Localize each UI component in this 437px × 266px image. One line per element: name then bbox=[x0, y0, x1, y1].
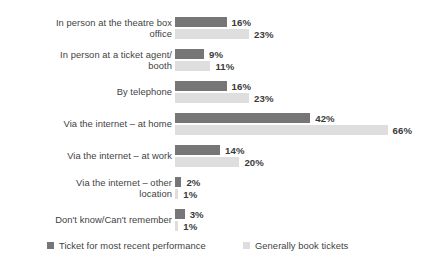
bar-value-label: 1% bbox=[183, 189, 197, 200]
chart-category-row: Via the internet – other location2%1% bbox=[0, 172, 437, 204]
bar-series-a bbox=[175, 49, 204, 59]
category-bar-group: 9%11% bbox=[175, 44, 437, 76]
bar-value-label: 14% bbox=[225, 145, 245, 156]
bar-track: 16% bbox=[175, 81, 437, 91]
chart-category-row: Don't know/Can't remember3%1% bbox=[0, 204, 437, 236]
chart-plot-area: In person at the theatre box office16%23… bbox=[0, 12, 437, 227]
chart-category-row: Via the internet – at home42%66% bbox=[0, 108, 437, 140]
legend-label-series-a: Ticket for most recent performance bbox=[59, 240, 206, 251]
bar-value-label: 9% bbox=[209, 49, 223, 60]
category-bar-group: 3%1% bbox=[175, 204, 437, 236]
category-label: In person at a ticket agent/ booth bbox=[12, 49, 172, 72]
bar-series-b bbox=[175, 221, 178, 231]
bar-chart: In person at the theatre box office16%23… bbox=[0, 0, 437, 266]
bar-value-label: 1% bbox=[183, 221, 197, 232]
bar-track: 3% bbox=[175, 209, 437, 219]
legend-item-generally-book-tickets: Generally book tickets bbox=[243, 237, 348, 253]
bar-series-a bbox=[175, 209, 185, 219]
category-label: Via the internet – at home bbox=[12, 118, 172, 129]
bar-track: 14% bbox=[175, 145, 437, 155]
category-label: By telephone bbox=[12, 86, 172, 97]
chart-legend: Ticket for most recent performance Gener… bbox=[0, 237, 437, 257]
bar-value-label: 20% bbox=[244, 157, 264, 168]
bar-series-b bbox=[175, 93, 249, 103]
bar-track: 23% bbox=[175, 29, 437, 39]
bar-value-label: 42% bbox=[315, 113, 335, 124]
legend-label-series-b: Generally book tickets bbox=[255, 240, 348, 251]
bar-value-label: 11% bbox=[215, 61, 234, 72]
bar-track: 20% bbox=[175, 157, 437, 167]
category-bar-group: 2%1% bbox=[175, 172, 437, 204]
category-bar-group: 14%20% bbox=[175, 140, 437, 172]
bar-track: 2% bbox=[175, 177, 437, 187]
bar-track: 66% bbox=[175, 125, 437, 135]
bar-series-a bbox=[175, 145, 220, 155]
bar-track: 16% bbox=[175, 17, 437, 27]
category-label: In person at the theatre box office bbox=[12, 17, 172, 40]
category-label: Don't know/Can't remember bbox=[12, 214, 172, 225]
category-label: Via the internet – at work bbox=[12, 150, 172, 161]
bar-series-b bbox=[175, 29, 249, 39]
legend-swatch-icon-series-b bbox=[243, 242, 250, 249]
category-bar-group: 16%23% bbox=[175, 12, 437, 44]
bar-track: 11% bbox=[175, 61, 437, 71]
category-bar-group: 42%66% bbox=[175, 108, 437, 140]
bar-series-a bbox=[175, 81, 227, 91]
bar-series-b bbox=[175, 125, 388, 135]
bar-series-b bbox=[175, 189, 178, 199]
category-label: Via the internet – other location bbox=[12, 177, 172, 200]
bar-series-b bbox=[175, 157, 239, 167]
chart-category-row: In person at a ticket agent/ booth9%11% bbox=[0, 44, 437, 76]
chart-category-row: Via the internet – at work14%20% bbox=[0, 140, 437, 172]
bar-value-label: 23% bbox=[254, 29, 274, 40]
bar-series-a bbox=[175, 177, 181, 187]
bar-series-b bbox=[175, 61, 210, 71]
bar-value-label: 3% bbox=[190, 209, 204, 220]
legend-item-ticket-for-most-recent-performance: Ticket for most recent performance bbox=[47, 237, 206, 253]
bar-value-label: 23% bbox=[254, 93, 274, 104]
bar-track: 42% bbox=[175, 113, 437, 123]
bar-track: 23% bbox=[175, 93, 437, 103]
chart-category-row: In person at the theatre box office16%23… bbox=[0, 12, 437, 44]
bar-track: 1% bbox=[175, 189, 437, 199]
bar-series-a bbox=[175, 17, 227, 27]
legend-swatch-icon-series-a bbox=[47, 242, 54, 249]
chart-category-row: By telephone16%23% bbox=[0, 76, 437, 108]
bar-value-label: 2% bbox=[186, 177, 200, 188]
bar-track: 1% bbox=[175, 221, 437, 231]
category-bar-group: 16%23% bbox=[175, 76, 437, 108]
bar-series-a bbox=[175, 113, 310, 123]
bar-track: 9% bbox=[175, 49, 437, 59]
bar-value-label: 16% bbox=[232, 17, 252, 28]
bar-value-label: 66% bbox=[393, 125, 413, 136]
bar-value-label: 16% bbox=[232, 81, 252, 92]
